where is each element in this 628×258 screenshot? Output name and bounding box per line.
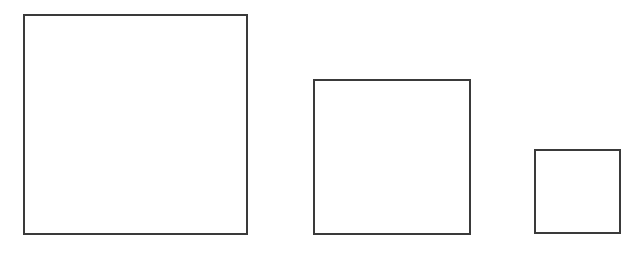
medium-square: [313, 79, 471, 235]
large-square: [23, 14, 248, 235]
small-square: [534, 149, 621, 234]
